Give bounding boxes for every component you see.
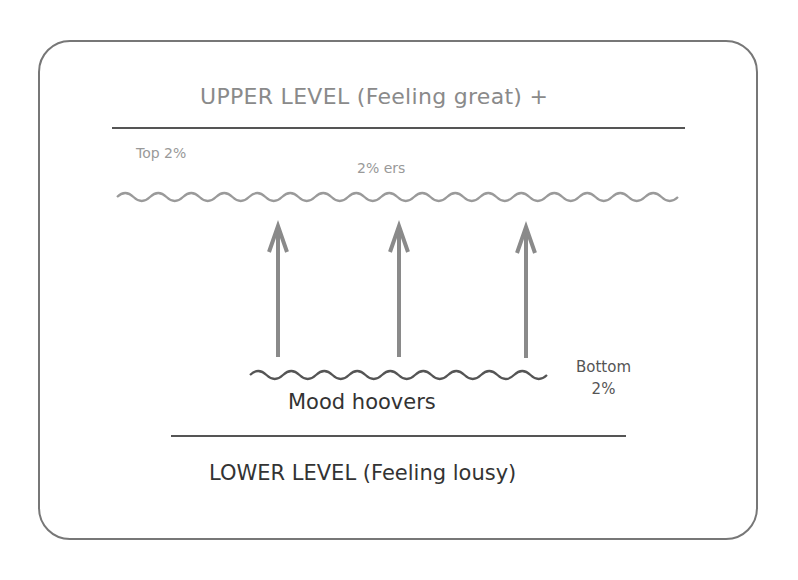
arrow-up-icon (269, 226, 287, 357)
bottom-tier-label: Bottom 2% (576, 356, 631, 400)
bottom-group-label: Mood hoovers (288, 390, 436, 414)
arrow-up-icon (390, 226, 408, 357)
lower-level-label: LOWER LEVEL (Feeling lousy) (209, 461, 516, 485)
bottom-tier-label-line1: Bottom (576, 356, 631, 378)
lower-wave-line (250, 371, 547, 379)
arrow-up-icon (517, 227, 535, 358)
diagram-lines (0, 0, 798, 580)
bottom-tier-label-line2: 2% (576, 378, 631, 400)
upper-wave-line (117, 193, 678, 201)
